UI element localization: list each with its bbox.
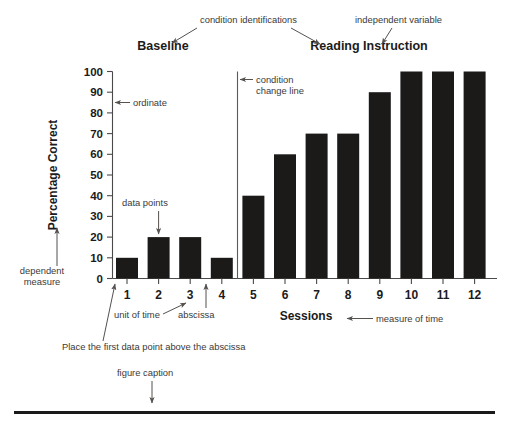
annotation-condition-change-line-2: change line: [256, 85, 304, 96]
x-tick-label-10: 10: [405, 288, 419, 302]
y-axis-ticks: [107, 72, 113, 279]
x-tick-label-4: 4: [218, 288, 225, 302]
x-tick-label-12: 12: [468, 288, 482, 302]
x-axis-ticks: [127, 279, 475, 285]
annotation-unit-of-time: unit of time: [114, 309, 160, 320]
bar-session-12: [464, 72, 486, 279]
x-tick-label-5: 5: [250, 288, 257, 302]
annotation-figure-caption: figure caption: [117, 367, 173, 378]
y-tick-label-90: 90: [90, 86, 103, 98]
phase-label-baseline: Baseline: [137, 39, 188, 53]
y-tick-label-70: 70: [90, 128, 103, 140]
annotated-bar-chart-figure: 0 10 20 30 40 50 60 70 80 90 100: [0, 0, 509, 425]
x-tick-label-1: 1: [124, 288, 131, 302]
x-axis-tick-labels: 1 2 3 4 5 6 7 8 9 10 11 12: [124, 288, 482, 302]
y-tick-label-10: 10: [90, 252, 103, 264]
x-tick-label-2: 2: [155, 288, 162, 302]
annotation-measure-of-time: measure of time: [376, 313, 443, 324]
y-tick-label-100: 100: [84, 66, 103, 78]
y-axis-title: Percentage Correct: [46, 120, 60, 231]
y-tick-label-60: 60: [90, 148, 103, 160]
y-tick-label-40: 40: [90, 190, 103, 202]
y-tick-label-20: 20: [90, 231, 103, 243]
annotation-independent-variable: independent variable: [355, 14, 442, 25]
annotation-ordinate: ordinate: [133, 97, 167, 108]
bar-session-7: [306, 134, 328, 279]
y-tick-label-30: 30: [90, 210, 103, 222]
bar-session-3: [179, 237, 201, 278]
x-tick-label-7: 7: [313, 288, 320, 302]
annotation-condition-identifications: condition identifications: [200, 14, 297, 25]
annotation-place-first-data-point: Place the first data point above the abs…: [62, 341, 246, 352]
bar-session-6: [274, 154, 296, 278]
bar-session-1: [116, 258, 138, 279]
x-tick-label-3: 3: [187, 288, 194, 302]
annotation-data-points: data points: [122, 197, 168, 208]
bar-session-5: [242, 196, 264, 279]
figure-canvas: 0 10 20 30 40 50 60 70 80 90 100: [0, 0, 509, 425]
y-tick-label-0: 0: [97, 273, 103, 285]
bar-session-9: [369, 92, 391, 278]
annotation-dependent-measure-2: measure: [24, 276, 60, 287]
y-tick-label-50: 50: [90, 169, 103, 181]
y-axis-tick-labels: 0 10 20 30 40 50 60 70 80 90 100: [84, 66, 103, 285]
y-tick-label-80: 80: [90, 107, 103, 119]
leader-condition-identifications-to-reading-instruction: [291, 28, 320, 44]
x-tick-label-11: 11: [437, 288, 450, 302]
bar-session-10: [400, 72, 422, 279]
bar-session-4: [211, 258, 233, 279]
annotation-condition-change-line-1: condition: [256, 74, 294, 85]
bars: [116, 72, 486, 279]
phase-label-reading-instruction: Reading Instruction: [310, 39, 427, 53]
annotation-abscissa: abscissa: [178, 309, 215, 320]
bar-session-2: [148, 237, 170, 278]
bar-session-8: [337, 134, 359, 279]
x-tick-label-8: 8: [345, 288, 352, 302]
bar-session-11: [432, 72, 454, 279]
annotation-dependent-measure-1: dependent: [20, 265, 65, 276]
x-tick-label-6: 6: [282, 288, 289, 302]
x-axis-title: Sessions: [280, 309, 333, 323]
x-tick-label-9: 9: [376, 288, 383, 302]
